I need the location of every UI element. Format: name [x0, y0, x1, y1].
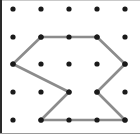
grid-dot[interactable] — [38, 6, 43, 11]
polygon-vertex-dot[interactable] — [10, 61, 15, 66]
main-polygon[interactable] — [13, 37, 125, 120]
polygon-vertex-dot[interactable] — [66, 89, 71, 94]
grid-dot[interactable] — [38, 89, 43, 94]
grid-dot[interactable] — [122, 6, 127, 11]
grid-dot[interactable] — [66, 117, 71, 122]
polygon-vertex-dot[interactable] — [94, 34, 99, 39]
grid-dot[interactable] — [66, 34, 71, 39]
grid-dot[interactable] — [10, 6, 15, 11]
grid-dot[interactable] — [66, 61, 71, 66]
polygon-vertex-dot[interactable] — [122, 117, 127, 122]
polygon-vertex-dot[interactable] — [38, 34, 43, 39]
geoboard-figure — [0, 0, 140, 134]
grid-dot[interactable] — [10, 89, 15, 94]
grid-dot[interactable] — [38, 61, 43, 66]
grid-dot[interactable] — [10, 117, 15, 122]
dot-grid-polygon-svg — [0, 0, 140, 134]
grid-dot[interactable] — [66, 6, 71, 11]
polygon-layer — [13, 37, 125, 120]
grid-dot[interactable] — [122, 89, 127, 94]
grid-dot[interactable] — [94, 6, 99, 11]
polygon-vertex-dot[interactable] — [122, 61, 127, 66]
grid-dot[interactable] — [122, 34, 127, 39]
polygon-vertex-dot[interactable] — [38, 117, 43, 122]
polygon-vertex-dot[interactable] — [94, 89, 99, 94]
grid-dot[interactable] — [94, 61, 99, 66]
grid-dot[interactable] — [10, 34, 15, 39]
grid-dot[interactable] — [94, 117, 99, 122]
